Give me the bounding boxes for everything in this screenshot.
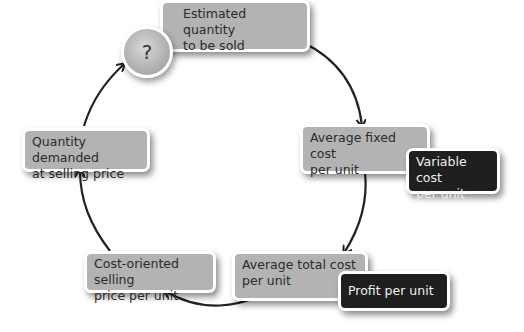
node-label-line1: Cost-oriented selling (94, 256, 206, 288)
arrow-estimated-to-fixed (302, 42, 362, 126)
node-label-line2: price per unit (94, 288, 206, 304)
node-estimated-quantity: Estimated quantity to be sold (160, 0, 310, 52)
node-label-line1: Average total cost (242, 257, 358, 273)
node-label-line1: Profit per unit (348, 283, 434, 299)
node-label-line1: Variable cost (416, 154, 490, 186)
question-mark-icon: ? (121, 26, 173, 78)
node-label-line1: Estimated quantity (183, 6, 300, 38)
node-quantity-demanded: Quantity demanded at selling price (22, 128, 150, 172)
node-label-line2: to be sold (183, 38, 300, 54)
arrow-fixed-to-total (344, 172, 366, 253)
node-label-line2: at selling price (32, 166, 140, 182)
node-label-line2: per unit (310, 162, 420, 178)
node-variable-cost: Variable cost per unit (406, 148, 500, 194)
arrow-demand-to-estimate (84, 64, 124, 126)
node-label-line2: per unit (416, 186, 490, 202)
node-profit-per-unit: Profit per unit (338, 271, 450, 311)
node-cost-oriented-price: Cost-oriented selling price per unit (84, 251, 216, 293)
start-symbol: ? (142, 40, 153, 64)
arrow-price-to-demand (80, 170, 110, 251)
node-label-line1: Quantity demanded (32, 134, 140, 166)
node-label-line1: Average fixed cost (310, 130, 420, 162)
